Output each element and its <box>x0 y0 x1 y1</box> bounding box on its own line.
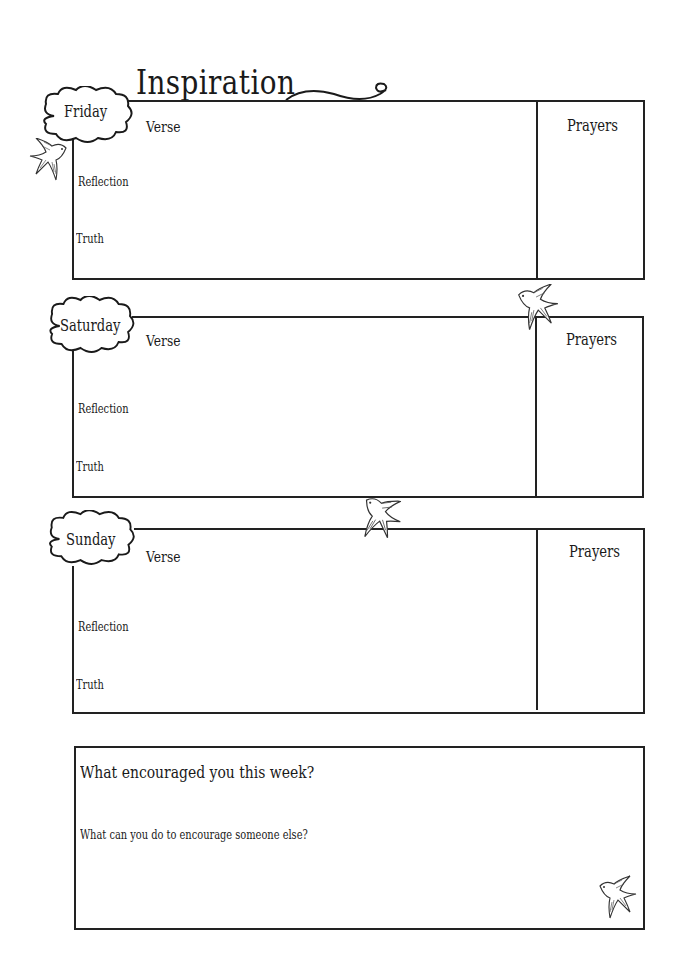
prayers-area[interactable] <box>538 102 643 278</box>
truth-area[interactable] <box>74 220 536 278</box>
prayers-area[interactable] <box>537 318 642 496</box>
page-title: Inspiration <box>136 62 295 102</box>
truth-area[interactable] <box>74 438 535 496</box>
reflection-area[interactable] <box>74 380 535 438</box>
question-encourage-others: What can you do to encourage someone els… <box>80 828 308 842</box>
verse-area[interactable] <box>74 530 536 602</box>
encouraged-answer-area[interactable] <box>76 790 642 824</box>
prayers-area[interactable] <box>538 530 643 710</box>
truth-area[interactable] <box>74 658 536 712</box>
reflection-area[interactable] <box>74 602 536 658</box>
encourage-others-answer-area[interactable] <box>76 848 642 926</box>
verse-area[interactable] <box>74 318 535 380</box>
swallow-bird-icon <box>28 138 74 184</box>
reflection-area[interactable] <box>74 162 536 220</box>
question-encouraged: What encouraged you this week? <box>80 762 314 782</box>
verse-area[interactable] <box>74 102 536 162</box>
